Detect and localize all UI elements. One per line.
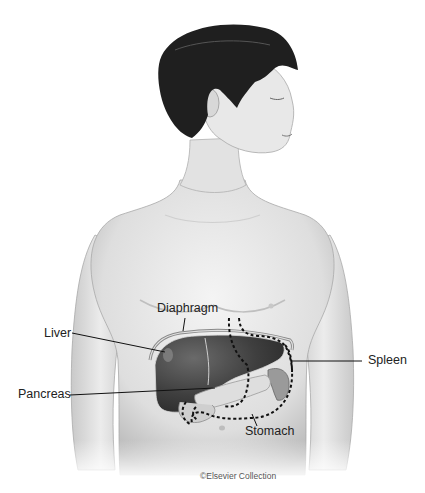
label-spleen: Spleen (368, 353, 407, 367)
copyright-credit: ©Elsevier Collection (200, 471, 276, 481)
label-pancreas: Pancreas (18, 387, 71, 401)
label-liver: Liver (44, 326, 71, 340)
torso (91, 180, 334, 475)
anatomy-figure: Diaphragm Liver Spleen Pancreas Stomach … (0, 0, 425, 493)
label-diaphragm: Diaphragm (157, 301, 218, 315)
torso-illustration (0, 0, 425, 493)
label-stomach: Stomach (245, 424, 294, 438)
